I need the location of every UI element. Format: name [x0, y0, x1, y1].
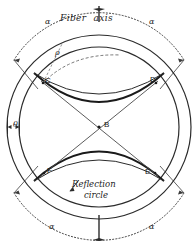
fiber-axis-label: Fiberaxis	[60, 14, 113, 23]
angle-label-alpha-top-right: α	[149, 18, 154, 26]
point-label-E: E	[145, 168, 150, 176]
reflection-circle-label-line2: circle	[84, 191, 108, 200]
angle-label-alpha-top-left: α	[45, 18, 50, 26]
point-C-dot	[42, 82, 45, 85]
angle-label-alpha-bottom-right: α	[149, 223, 154, 231]
top-center-arrow-left	[93, 8, 99, 11]
point-label-B: B	[104, 121, 109, 129]
fiber-axis-word1: Fiber	[60, 13, 87, 23]
reflection-circle-label-line1: Reflection	[72, 180, 116, 189]
angle-label-theta: θ	[13, 121, 18, 129]
point-F-dot	[43, 172, 46, 175]
point-label-F: F	[47, 167, 52, 175]
upper-reflection-arc	[34, 73, 164, 102]
point-E-dot	[154, 172, 157, 175]
center-point-B	[97, 125, 100, 128]
angle-label-rho: ρ	[55, 49, 60, 57]
fiber-axis-word2: axis	[94, 13, 114, 23]
theta-left-arrow	[8, 125, 12, 129]
rho-dashed-arc	[43, 55, 120, 83]
top-center-arrow-right	[99, 8, 105, 11]
point-label-C: C	[45, 77, 51, 85]
point-label-D: D	[150, 76, 156, 84]
diagram-canvas	[0, 0, 194, 249]
angle-label-alpha-bottom-left: α	[49, 223, 54, 231]
